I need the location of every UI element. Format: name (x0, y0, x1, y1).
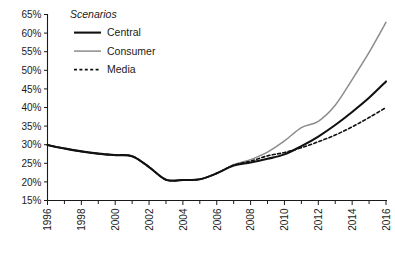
y-tick-label: 45% (21, 84, 41, 95)
x-tick-label: 2010 (279, 208, 290, 231)
legend-label-media: Media (107, 63, 136, 75)
y-tick-label: 40% (21, 102, 41, 113)
y-tick-label: 20% (21, 177, 41, 188)
y-tick-label: 25% (21, 158, 41, 169)
chart-background (0, 0, 395, 262)
legend-title: Scenarios (70, 8, 117, 20)
y-tick-label: 60% (21, 28, 41, 39)
y-tick-label: 35% (21, 121, 41, 132)
y-tick-label: 15% (21, 195, 41, 206)
x-tick-label: 2004 (178, 208, 189, 231)
x-tick-label: 2000 (110, 208, 121, 231)
y-tick-label: 50% (21, 65, 41, 76)
y-tick-label: 65% (21, 9, 41, 20)
chart-canvas: 15%20%25%30%35%40%45%50%55%60%65% 199619… (0, 0, 395, 262)
x-tick-label: 2012 (313, 208, 324, 231)
x-tick-label: 1998 (76, 208, 87, 231)
x-tick-label: 1996 (42, 208, 53, 231)
legend-label-consumer: Consumer (107, 45, 156, 57)
y-tick-label: 30% (21, 139, 41, 150)
x-tick-label: 2008 (245, 208, 256, 231)
x-tick-label: 2002 (144, 208, 155, 231)
legend-label-central: Central (107, 26, 141, 38)
x-tick-label: 2014 (347, 208, 358, 231)
x-tick-label: 2006 (212, 208, 223, 231)
x-tick-label: 2016 (381, 208, 392, 231)
y-tick-label: 55% (21, 46, 41, 57)
line-chart: 15%20%25%30%35%40%45%50%55%60%65% 199619… (0, 0, 395, 262)
